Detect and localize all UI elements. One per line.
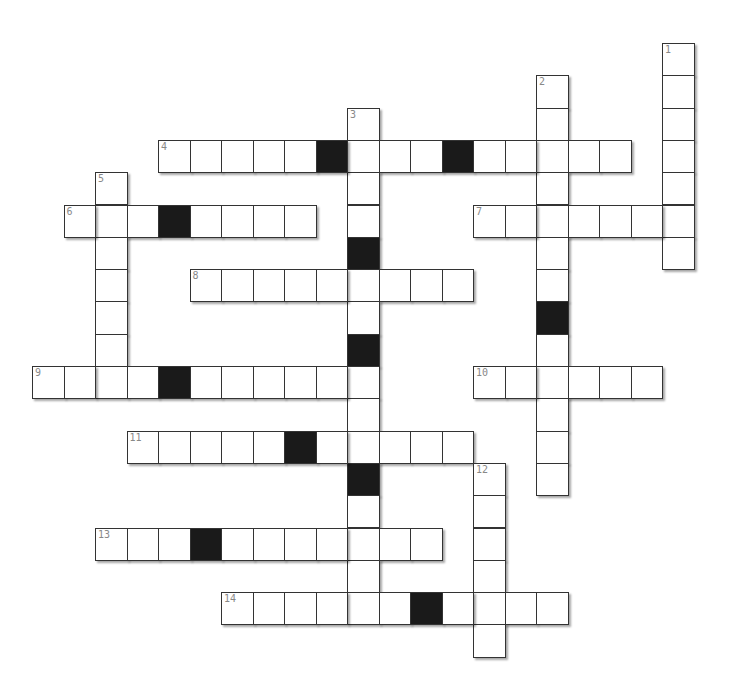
crossword-cell[interactable]: [158, 431, 191, 464]
crossword-cell[interactable]: [442, 592, 475, 625]
crossword-cell[interactable]: [473, 495, 506, 528]
crossword-cell[interactable]: [473, 592, 506, 625]
crossword-cell[interactable]: [662, 140, 695, 173]
crossword-cell[interactable]: [190, 205, 223, 238]
crossword-cell[interactable]: [379, 140, 412, 173]
crossword-cell[interactable]: 3: [347, 108, 380, 141]
crossword-cell[interactable]: [379, 269, 412, 302]
crossword-cell[interactable]: [410, 528, 443, 561]
crossword-cell[interactable]: [347, 205, 380, 238]
crossword-cell[interactable]: [410, 140, 443, 173]
crossword-cell[interactable]: 5: [95, 172, 128, 205]
crossword-cell[interactable]: [95, 237, 128, 270]
crossword-cell[interactable]: [662, 108, 695, 141]
crossword-cell[interactable]: [536, 431, 569, 464]
crossword-cell[interactable]: [599, 205, 632, 238]
crossword-cell[interactable]: [410, 431, 443, 464]
crossword-cell[interactable]: [347, 560, 380, 593]
crossword-cell[interactable]: [662, 205, 695, 238]
crossword-cell[interactable]: [127, 205, 160, 238]
crossword-cell[interactable]: [662, 237, 695, 270]
crossword-cell[interactable]: [347, 269, 380, 302]
crossword-cell[interactable]: [505, 205, 538, 238]
crossword-cell[interactable]: [536, 140, 569, 173]
crossword-cell[interactable]: [662, 172, 695, 205]
crossword-cell[interactable]: [379, 528, 412, 561]
crossword-cell[interactable]: [347, 495, 380, 528]
crossword-cell[interactable]: [253, 431, 286, 464]
crossword-cell[interactable]: [95, 334, 128, 367]
crossword-cell[interactable]: [568, 205, 601, 238]
crossword-cell[interactable]: [95, 301, 128, 334]
crossword-cell[interactable]: 2: [536, 75, 569, 108]
crossword-cell[interactable]: [347, 140, 380, 173]
crossword-cell[interactable]: [253, 528, 286, 561]
crossword-cell[interactable]: [599, 366, 632, 399]
crossword-cell[interactable]: [64, 366, 97, 399]
crossword-cell[interactable]: [221, 205, 254, 238]
crossword-cell[interactable]: [316, 431, 349, 464]
crossword-cell[interactable]: [536, 398, 569, 431]
crossword-cell[interactable]: [158, 528, 191, 561]
crossword-cell[interactable]: [347, 366, 380, 399]
crossword-cell[interactable]: [347, 431, 380, 464]
crossword-cell[interactable]: [284, 366, 317, 399]
crossword-cell[interactable]: [316, 592, 349, 625]
crossword-cell[interactable]: [316, 528, 349, 561]
crossword-cell[interactable]: [536, 463, 569, 496]
crossword-cell[interactable]: 7: [473, 205, 506, 238]
crossword-cell[interactable]: [347, 398, 380, 431]
crossword-cell[interactable]: [473, 140, 506, 173]
crossword-cell[interactable]: [568, 366, 601, 399]
crossword-cell[interactable]: [442, 431, 475, 464]
crossword-cell[interactable]: 6: [64, 205, 97, 238]
crossword-cell[interactable]: [347, 528, 380, 561]
crossword-cell[interactable]: [190, 366, 223, 399]
crossword-cell[interactable]: [536, 592, 569, 625]
crossword-cell[interactable]: [631, 366, 664, 399]
crossword-cell[interactable]: 13: [95, 528, 128, 561]
crossword-cell[interactable]: [599, 140, 632, 173]
crossword-cell[interactable]: [253, 205, 286, 238]
crossword-cell[interactable]: [536, 366, 569, 399]
crossword-cell[interactable]: [347, 592, 380, 625]
crossword-cell[interactable]: [95, 366, 128, 399]
crossword-cell[interactable]: [316, 269, 349, 302]
crossword-cell[interactable]: [253, 140, 286, 173]
crossword-cell[interactable]: [536, 334, 569, 367]
crossword-cell[interactable]: [316, 366, 349, 399]
crossword-cell[interactable]: [190, 431, 223, 464]
crossword-cell[interactable]: [127, 528, 160, 561]
crossword-cell[interactable]: [473, 624, 506, 657]
crossword-cell[interactable]: 1: [662, 43, 695, 76]
crossword-cell[interactable]: [473, 528, 506, 561]
crossword-cell[interactable]: [536, 237, 569, 270]
crossword-cell[interactable]: [221, 140, 254, 173]
crossword-cell[interactable]: [536, 172, 569, 205]
crossword-cell[interactable]: [95, 269, 128, 302]
crossword-cell[interactable]: 14: [221, 592, 254, 625]
crossword-cell[interactable]: [505, 592, 538, 625]
crossword-cell[interactable]: [127, 366, 160, 399]
crossword-cell[interactable]: 4: [158, 140, 191, 173]
crossword-cell[interactable]: [190, 140, 223, 173]
crossword-cell[interactable]: 9: [32, 366, 65, 399]
crossword-cell[interactable]: 11: [127, 431, 160, 464]
crossword-cell[interactable]: [253, 366, 286, 399]
crossword-cell[interactable]: [379, 592, 412, 625]
crossword-cell[interactable]: [536, 108, 569, 141]
crossword-cell[interactable]: [284, 269, 317, 302]
crossword-cell[interactable]: [221, 366, 254, 399]
crossword-cell[interactable]: [442, 269, 475, 302]
crossword-cell[interactable]: [347, 172, 380, 205]
crossword-cell[interactable]: [536, 205, 569, 238]
crossword-cell[interactable]: [410, 269, 443, 302]
crossword-cell[interactable]: 12: [473, 463, 506, 496]
crossword-cell[interactable]: [253, 592, 286, 625]
crossword-cell[interactable]: [631, 205, 664, 238]
crossword-cell[interactable]: [473, 560, 506, 593]
crossword-cell[interactable]: [347, 301, 380, 334]
crossword-cell[interactable]: [379, 431, 412, 464]
crossword-cell[interactable]: [95, 205, 128, 238]
crossword-cell[interactable]: [505, 140, 538, 173]
